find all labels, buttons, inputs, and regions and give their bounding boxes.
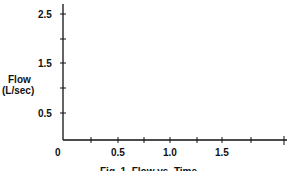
y-tick-label-1.5: 1.5 (38, 58, 52, 69)
x-tick-label-1.0: 1.0 (163, 147, 177, 158)
y-tick-label-0.5: 0.5 (38, 108, 52, 119)
y-axis-label-line1: Flow (8, 74, 31, 85)
x-tick-label-0: 0 (55, 147, 61, 158)
chart-axes (0, 0, 290, 171)
x-tick-label-0.5: 0.5 (111, 147, 125, 158)
y-axis-label-line2: (L/sec) (2, 85, 34, 96)
y-tick-label-2.5: 2.5 (38, 9, 52, 20)
x-tick-label-1.5: 1.5 (215, 147, 229, 158)
figure-caption: Fig. 1. Flow vs. Time (100, 166, 197, 171)
